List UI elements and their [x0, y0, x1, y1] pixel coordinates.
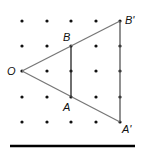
- grid-dot: [20, 95, 23, 98]
- grid-dot: [45, 69, 48, 72]
- grid-dot: [20, 19, 23, 22]
- label-A: A: [62, 101, 70, 113]
- grid-dot: [20, 120, 23, 123]
- grid-dot: [45, 44, 48, 47]
- grid-dot: [20, 44, 23, 47]
- grid-dot: [69, 120, 72, 123]
- label-O: O: [7, 65, 16, 77]
- grid-dot: [69, 19, 72, 22]
- grid-dot: [45, 95, 48, 98]
- label-A-prime: A': [121, 123, 132, 135]
- segments: [22, 21, 120, 122]
- grid-dot: [45, 19, 48, 22]
- grid-dot: [94, 120, 97, 123]
- grid-dot: [94, 44, 97, 47]
- label-B-prime: B': [125, 14, 135, 26]
- grid-dot: [94, 69, 97, 72]
- diagram-canvas: O B A B' A': [0, 0, 141, 148]
- dilation-diagram: O B A B' A': [0, 0, 141, 148]
- grid-dot: [94, 19, 97, 22]
- grid-dot: [94, 95, 97, 98]
- label-B: B: [63, 31, 70, 43]
- grid-dot: [45, 120, 48, 123]
